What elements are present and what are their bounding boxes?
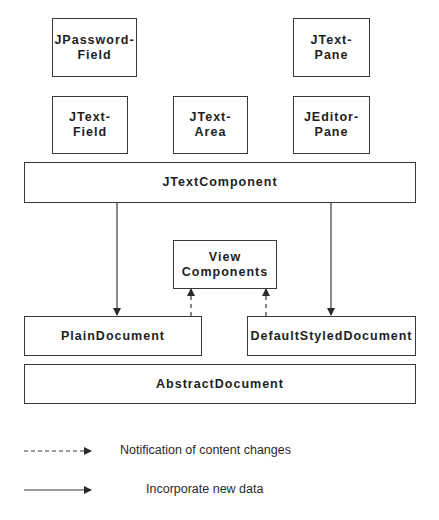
jtextarea-label-line1: JText- [190,110,232,125]
jtextfield-label-line1: JText- [69,110,111,125]
jeditorpane-label-line2: Pane [304,125,359,140]
jpasswordfield-label-line2: Field [54,48,134,63]
plaindocument-box: PlainDocument [24,316,202,356]
jtextarea-box: JText- Area [173,96,248,154]
jtextpane-box: JText- Pane [293,18,370,77]
jtextfield-label-line2: Field [69,125,111,140]
jeditorpane-label-line1: JEditor- [304,110,359,125]
abstractdocument-box: AbstractDocument [24,364,416,404]
jtextcomponent-box: JTextComponent [24,162,416,203]
view-components-box: View Components [173,240,277,289]
jtextarea-label-line2: Area [190,125,232,140]
defaultstyleddocument-box: DefaultStyledDocument [247,316,416,356]
jpasswordfield-label-line1: JPassword- [54,33,134,48]
legend-dashed-label: Notification of content changes [120,443,291,457]
jtextcomponent-label: JTextComponent [162,175,277,190]
plaindocument-label: PlainDocument [61,329,165,344]
jtextpane-label-line2: Pane [311,48,353,63]
abstractdocument-label: AbstractDocument [156,377,284,392]
jeditorpane-box: JEditor- Pane [293,96,370,154]
jpasswordfield-box: JPassword- Field [52,18,137,77]
jtextfield-box: JText- Field [52,96,128,154]
view-components-label-line2: Components [182,265,268,280]
view-components-label-line1: View [182,250,268,265]
jtextpane-label-line1: JText- [311,33,353,48]
legend-solid-label: Incorporate new data [146,482,263,496]
defaultstyleddocument-label: DefaultStyledDocument [251,329,413,344]
